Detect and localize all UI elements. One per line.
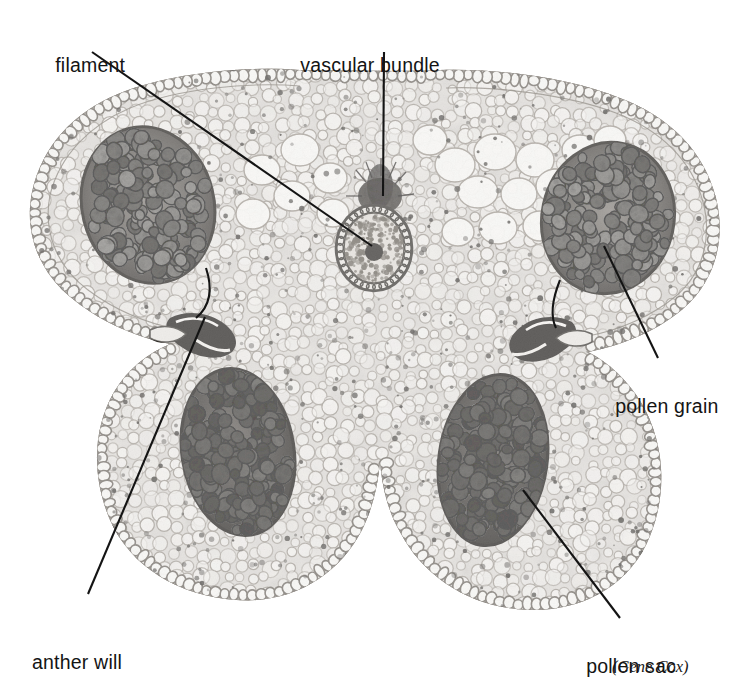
label-anther-will-split-here: anther will split here bbox=[32, 600, 122, 692]
anther-cross-section-micrograph bbox=[0, 0, 741, 692]
label-vascular-bundle-text: vascular bundle bbox=[300, 54, 440, 76]
label-filament: filament bbox=[44, 28, 125, 78]
label-filament-text: filament bbox=[55, 54, 125, 76]
label-vascular-bundle: vascular bundle bbox=[289, 28, 440, 78]
photo-credit: (Gene Cox) bbox=[612, 657, 689, 677]
label-pollen-grain-text: pollen grain bbox=[615, 395, 718, 417]
label-anther-split-line1: anther will bbox=[32, 650, 122, 675]
label-pollen-grain: pollen grain bbox=[604, 369, 718, 419]
